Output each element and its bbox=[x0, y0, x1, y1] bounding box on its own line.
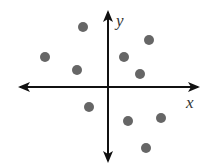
data-point bbox=[156, 113, 166, 123]
data-point bbox=[144, 35, 154, 45]
data-point bbox=[40, 52, 50, 62]
data-point bbox=[135, 69, 145, 79]
data-point bbox=[84, 102, 94, 112]
data-point bbox=[72, 65, 82, 75]
data-point bbox=[78, 22, 88, 32]
data-point bbox=[141, 143, 151, 153]
y-axis-label: y bbox=[116, 12, 124, 29]
data-point bbox=[123, 116, 133, 126]
data-point bbox=[119, 52, 129, 62]
x-axis-label: x bbox=[186, 94, 194, 111]
scatter-plot bbox=[0, 0, 216, 165]
